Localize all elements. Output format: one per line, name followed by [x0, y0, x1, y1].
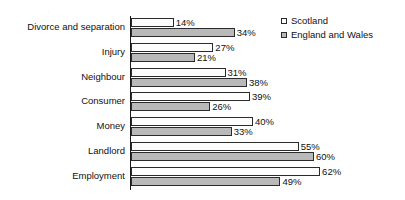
legend-swatch-england-and-wales: [281, 32, 287, 38]
bar-rect: [131, 92, 250, 101]
category-label: Money: [0, 121, 125, 131]
legend-swatch-scotland: [281, 18, 287, 24]
bar-rect: [131, 53, 195, 62]
bar-rect: [131, 117, 253, 126]
bar-scotland: [131, 43, 213, 52]
bar-rect: [131, 28, 235, 37]
category-label: Divorce and separation: [0, 22, 125, 32]
bar-value-label: 40%: [255, 116, 274, 127]
bar-value-label: 62%: [322, 166, 341, 177]
legend-item-england-and-wales: England and Wales: [281, 28, 405, 41]
bar-rect: [131, 102, 210, 111]
bar-rect: [131, 43, 213, 52]
bar-value-label: 27%: [215, 42, 234, 53]
bar-rect: [131, 127, 232, 136]
bar-rect: [131, 18, 174, 27]
bar-value-label: 49%: [282, 176, 301, 187]
bar-scotland: [131, 167, 320, 176]
bar-england-and-wales: [131, 78, 247, 87]
bar-scotland: [131, 68, 226, 77]
bar-value-label: 14%: [176, 17, 195, 28]
bar-rect: [131, 177, 280, 186]
category-label: Consumer: [0, 96, 125, 106]
bar-value-label: 31%: [228, 67, 247, 78]
bar-scotland: [131, 92, 250, 101]
bar-rect: [131, 78, 247, 87]
bar-england-and-wales: [131, 177, 280, 186]
bar-rect: [131, 152, 314, 161]
bar-england-and-wales: [131, 152, 314, 161]
bar-england-and-wales: [131, 127, 232, 136]
bar-chart: Divorce and separation14%34%Injury27%21%…: [0, 0, 405, 200]
bar-value-label: 38%: [249, 77, 268, 88]
legend-item-scotland: Scotland: [281, 14, 405, 27]
bar-rect: [131, 167, 320, 176]
bar-england-and-wales: [131, 53, 195, 62]
bar-value-label: 26%: [212, 101, 231, 112]
bar-value-label: 34%: [237, 27, 256, 38]
bar-scotland: [131, 142, 299, 151]
legend-label-scotland: Scotland: [291, 16, 328, 26]
bar-scotland: [131, 117, 253, 126]
category-label: Employment: [0, 171, 125, 181]
category-label: Landlord: [0, 146, 125, 156]
bar-value-label: 21%: [197, 52, 216, 63]
category-label: Neighbour: [0, 72, 125, 82]
bar-rect: [131, 68, 226, 77]
chart-legend: Scotland England and Wales: [281, 14, 405, 42]
bar-value-label: 60%: [316, 151, 335, 162]
bar-rect: [131, 142, 299, 151]
bar-england-and-wales: [131, 102, 210, 111]
bar-scotland: [131, 18, 174, 27]
legend-label-england-and-wales: England and Wales: [291, 30, 373, 40]
bar-value-label: 33%: [234, 126, 253, 137]
category-label: Injury: [0, 47, 125, 57]
bar-england-and-wales: [131, 28, 235, 37]
bar-value-label: 39%: [252, 91, 271, 102]
